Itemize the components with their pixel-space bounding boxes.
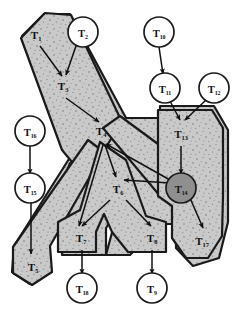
label-subscript: 5 [35, 267, 38, 274]
label-base: T [175, 184, 182, 195]
label-base: T [208, 84, 215, 95]
label-subscript: 12 [215, 90, 221, 96]
node-label-t1: T1 [31, 26, 41, 43]
node-label-t12: T12 [208, 80, 221, 96]
node-label-t7: T7 [76, 229, 86, 246]
label-subscript: 18 [83, 290, 89, 296]
label-base: T [78, 28, 85, 39]
node-label-t9: T9 [147, 280, 157, 296]
node-label-t16: T16 [24, 123, 37, 139]
node-label-t8: T8 [147, 229, 157, 246]
label-subscript: 1 [38, 35, 41, 42]
label-base: T [147, 284, 154, 295]
node-label-t4: T4 [96, 122, 106, 139]
label-subscript: 2 [85, 34, 88, 40]
label-subscript: 6 [120, 189, 123, 196]
label-base: T [24, 127, 31, 138]
diagram-canvas: T1T2T3T4T5T6T7T8T9T10T11T12T13T14T15T16T… [0, 0, 232, 312]
label-base: T [24, 184, 31, 195]
label-subscript: 13 [182, 134, 188, 141]
label-subscript: 3 [65, 86, 68, 93]
node-label-t5: T5 [28, 258, 38, 275]
node-label-t17: T17 [195, 232, 208, 249]
label-subscript: 16 [31, 133, 37, 139]
label-subscript: 4 [103, 131, 106, 138]
label-subscript: 9 [154, 290, 157, 296]
label-subscript: 7 [83, 238, 86, 245]
node-label-t14: T14 [175, 180, 188, 196]
label-subscript: 15 [31, 190, 37, 196]
label-subscript: 11 [166, 90, 171, 96]
label-base: T [76, 284, 83, 295]
node-label-t13: T13 [174, 125, 187, 142]
label-subscript: 8 [154, 238, 157, 245]
node-label-t15: T15 [24, 180, 37, 196]
label-base: T [159, 84, 166, 95]
node-label-t11: T11 [159, 80, 171, 96]
label-base: T [153, 28, 160, 39]
label-subscript: 14 [182, 190, 188, 196]
label-subscript: 10 [160, 34, 166, 40]
node-label-t2: T2 [78, 24, 88, 40]
node-label-t6: T6 [113, 180, 123, 197]
node-label-t3: T3 [58, 77, 68, 94]
node-label-t10: T10 [153, 24, 166, 40]
label-subscript: 17 [203, 241, 209, 248]
node-label-t18: T18 [76, 280, 89, 296]
